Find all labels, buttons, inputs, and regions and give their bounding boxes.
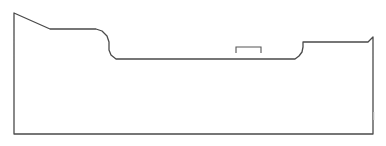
profile-outline: [14, 13, 373, 134]
profile-outline-svg: [0, 0, 386, 146]
profile-diagram: [0, 0, 386, 146]
bracket-feature: [236, 47, 261, 53]
